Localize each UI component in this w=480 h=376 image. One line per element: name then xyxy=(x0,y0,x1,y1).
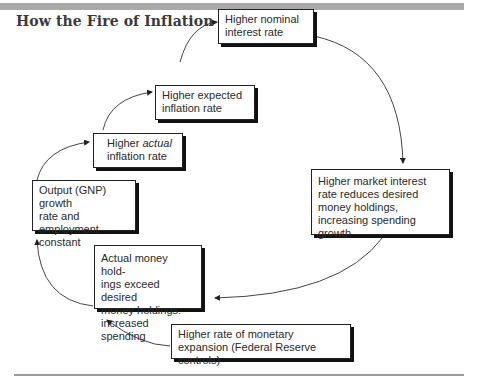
box-higher-market-interest-rate: Higher market interest rate reduces desi… xyxy=(311,169,450,235)
arrow-nominal-to-market xyxy=(314,36,403,163)
arrow-expected-to-nominal xyxy=(180,22,217,62)
box-higher-expected-inflation-rate: Higher expected inflation rate xyxy=(155,85,255,120)
box-actual-money-holdings-exceed: Actual money hold- ings exceed desired m… xyxy=(94,245,202,309)
arrow-output-to-actual xyxy=(37,142,89,180)
arrow-market-to-holdings xyxy=(215,237,383,298)
arrow-actual-to-expected xyxy=(103,92,152,130)
box-higher-monetary-expansion: Higher rate of monetary expansion (Feder… xyxy=(171,324,351,359)
box-higher-nominal-interest-rate: Higher nominal interest rate xyxy=(218,9,314,44)
box-output-growth-constant: Output (GNP) growth rate and employment … xyxy=(32,180,136,231)
box-higher-actual-inflation-rate: Higher actual inflation rate xyxy=(93,133,183,168)
arrow-holdings-to-output xyxy=(37,240,93,306)
